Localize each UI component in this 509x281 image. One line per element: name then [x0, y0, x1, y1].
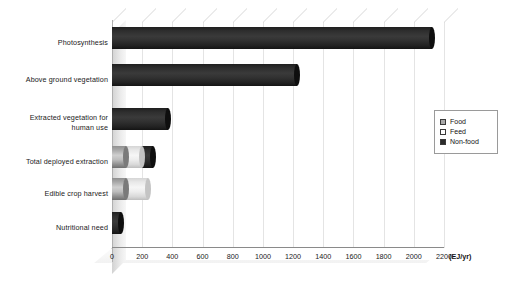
- x-tick-label-1600: 1600: [345, 252, 361, 261]
- gridline-1000: [263, 22, 264, 248]
- x-tick-label-1000: 1000: [255, 252, 271, 261]
- x-tick-label-1400: 1400: [315, 252, 331, 261]
- x-tick-label-2000: 2000: [406, 252, 422, 261]
- gridline-1600: [353, 22, 354, 248]
- category-label-line: Photosynthesis: [10, 38, 108, 48]
- legend-swatch-food-icon: [440, 119, 446, 125]
- gridline-2000: [414, 22, 415, 248]
- chart-legend: Food Feed Non-food: [434, 110, 498, 154]
- bar-segment-food[interactable]: [112, 178, 126, 200]
- bar-segment-nonfood[interactable]: [112, 64, 297, 86]
- category-label-1: Above ground vegetation: [10, 75, 108, 85]
- bar-segment-end-cap: [429, 27, 435, 49]
- bar-segment-body: [112, 64, 297, 86]
- bar-segment-body: [112, 27, 432, 49]
- category-label-0: Photosynthesis: [10, 38, 108, 48]
- bar-segment-nonfood[interactable]: [112, 212, 121, 234]
- bar-segment-nonfood[interactable]: [112, 108, 168, 130]
- x-axis-unit-label: (EJ/yr): [449, 252, 471, 261]
- legend-label-non-food: Non-food: [450, 138, 479, 145]
- gridline-600: [203, 22, 204, 248]
- x-tick-label-1200: 1200: [285, 252, 301, 261]
- gridline-1400: [323, 22, 324, 248]
- x-tick-label-0: 0: [110, 252, 114, 261]
- legend-item-feed[interactable]: Feed: [440, 128, 493, 135]
- category-label-2: Extracted vegetation forhuman use: [10, 113, 108, 132]
- x-tick-label-800: 800: [227, 252, 239, 261]
- bar-segment-nonfood[interactable]: [112, 27, 432, 49]
- category-label-line: Extracted vegetation for: [10, 113, 108, 123]
- category-label-4: Edible crop harvest: [10, 189, 108, 199]
- legend-label-feed: Feed: [450, 128, 466, 135]
- gridline-800: [233, 22, 234, 248]
- bar-segment-feed[interactable]: [126, 178, 149, 200]
- category-label-line: human use: [10, 123, 108, 133]
- plot-back-wall: [126, 20, 444, 260]
- x-tick-label-1800: 1800: [376, 252, 392, 261]
- legend-item-non-food[interactable]: Non-food: [440, 138, 493, 145]
- legend-item-food[interactable]: Food: [440, 118, 493, 125]
- bar-segment-end-cap: [165, 108, 171, 130]
- bar-segment-body: [112, 108, 168, 130]
- category-label-line: Nutritional need: [10, 223, 108, 233]
- x-tick-label-600: 600: [197, 252, 209, 261]
- category-label-5: Nutritional need: [10, 223, 108, 233]
- bar-segment-end-cap: [118, 212, 124, 234]
- legend-swatch-non-food-icon: [440, 139, 446, 145]
- legend-label-food: Food: [450, 118, 466, 125]
- gridline-1800: [384, 22, 385, 248]
- category-label-line: Edible crop harvest: [10, 189, 108, 199]
- gridline-top-2200: [444, 8, 458, 23]
- bar-segment-end-cap: [123, 178, 129, 200]
- x-tick-label-200: 200: [136, 252, 148, 261]
- bar-segment-end-cap: [150, 146, 156, 168]
- gridline-1200: [293, 22, 294, 248]
- bar-segment-food[interactable]: [112, 146, 126, 168]
- chart-container: PhotosynthesisAbove ground vegetationExt…: [0, 0, 509, 281]
- gridline-200: [142, 22, 143, 248]
- gridline-400: [172, 22, 173, 248]
- category-label-line: Total deployed extraction: [10, 157, 108, 167]
- category-axis-labels: PhotosynthesisAbove ground vegetationExt…: [4, 0, 108, 281]
- x-tick-label-400: 400: [166, 252, 178, 261]
- x-axis-baseline: [112, 247, 444, 248]
- bar-segment-end-cap: [123, 146, 129, 168]
- legend-swatch-feed-icon: [440, 129, 446, 135]
- bar-segment-end-cap: [294, 64, 300, 86]
- category-label-3: Total deployed extraction: [10, 157, 108, 167]
- category-label-line: Above ground vegetation: [10, 75, 108, 85]
